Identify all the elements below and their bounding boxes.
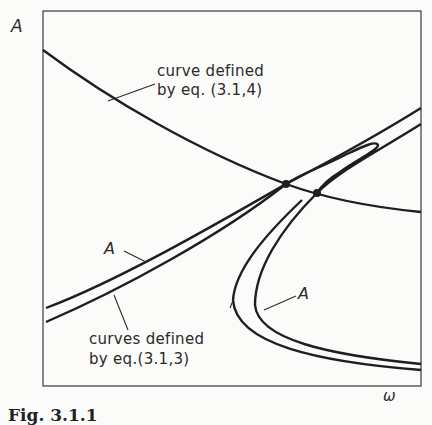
x-axis-label: ω [383,388,396,405]
leader-eq-3-1-3-left [114,295,128,330]
annotation-eq-3-1-4-line1: curve defined [157,63,264,80]
y-axis-label: A [11,18,23,35]
intersection-dot-1 [282,180,290,188]
leader-A-right [264,296,296,310]
intersection-dot-2 [313,189,321,197]
annotation-eq-3-1-4-line2: by eq. (3.1,4) [157,82,263,99]
annotation-eq-3-1-3-line1: curves defined [89,331,204,348]
curve-eq-3-1-3-upper [46,108,421,308]
annotation-A-right: A [298,285,309,302]
leader-eq-3-1-4 [108,84,155,101]
annotation-A-left: A [104,240,115,257]
curve-eq-3-1-3-inner-c [255,193,421,364]
figure-caption: Fig. 3.1.1 [8,405,98,425]
curve-eq-3-1-3-outer-c [233,200,421,370]
leader-A-left [124,251,146,262]
annotation-eq-3-1-3-line2: by eq.(3.1,3) [89,351,189,368]
